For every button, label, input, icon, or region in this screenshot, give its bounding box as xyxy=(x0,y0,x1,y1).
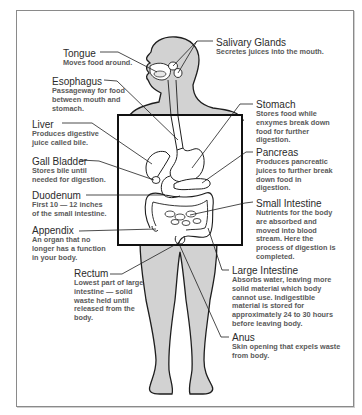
tongue-shape xyxy=(154,71,166,77)
label-stomach: Stomach Stores food while enxymes break … xyxy=(256,99,330,145)
label-description: body. xyxy=(74,314,143,323)
label-anus: Anus Skin opening that expels waste from… xyxy=(232,332,340,361)
label-description: completed. xyxy=(256,253,335,262)
label-large-intestine: Large Intestine Absorbs water, leaving m… xyxy=(232,265,333,329)
label-description: digestion. xyxy=(256,184,333,193)
label-description: from body. xyxy=(232,352,340,361)
label-gall-bladder: Gall Bladder Stores bile until needed fo… xyxy=(32,156,106,185)
label-description: Moves food around. xyxy=(63,59,132,68)
label-salivary-glands: Salivary Glands Secretes juices into the… xyxy=(216,37,324,57)
label-duodenum: Duodenum First 10 — 12 inches of the sma… xyxy=(32,190,107,219)
label-rectum: Rectum Lowest part of large intestine — … xyxy=(74,268,143,323)
label-description: juice called bile. xyxy=(32,139,99,148)
label-tongue: Tongue Moves food around. xyxy=(63,48,132,68)
legs-silhouette xyxy=(140,240,217,394)
label-small-intestine: Small Intestine Nutrients for the body a… xyxy=(256,198,335,262)
label-description: stomach. xyxy=(52,105,125,114)
label-description: in your body. xyxy=(32,254,106,263)
label-description: digestion. xyxy=(256,136,330,145)
label-appendix: Appendix An organ that no longer has a f… xyxy=(32,225,106,262)
label-pancreas: Pancreas Produces pancreatic juices to f… xyxy=(256,147,333,193)
label-liver: Liver Produces digestive juice called bi… xyxy=(32,119,99,148)
label-description: Secretes juices into the mouth. xyxy=(216,48,324,57)
label-description: of the small intestine. xyxy=(32,210,107,219)
label-esophagus: Esophagus Passageway for food between mo… xyxy=(52,76,125,113)
label-description: needed for digestion. xyxy=(32,176,106,185)
label-description: before leaving body. xyxy=(232,320,333,329)
